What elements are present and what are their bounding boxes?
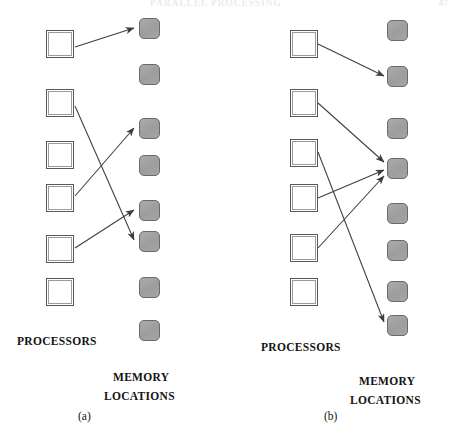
panel-b-arrow-layer bbox=[236, 0, 452, 443]
label-memory-a-line2: LOCATIONS bbox=[104, 390, 175, 402]
figure-root: PARALLEL PROCESSING 47 bbox=[0, 0, 452, 443]
memory-box-a-6[interactable] bbox=[139, 231, 160, 252]
memory-box-a-8[interactable] bbox=[139, 320, 160, 341]
processor-box-b-5[interactable] bbox=[290, 234, 318, 262]
label-processors-a: PROCESSORS bbox=[17, 335, 97, 347]
memory-box-b-2[interactable] bbox=[387, 66, 408, 87]
memory-box-a-5[interactable] bbox=[139, 200, 160, 221]
processor-box-a-2[interactable] bbox=[46, 89, 74, 117]
label-processors-b: PROCESSORS bbox=[261, 341, 341, 353]
processor-box-b-2[interactable] bbox=[290, 89, 318, 117]
panel-a: PROCESSORS MEMORY LOCATIONS (a) bbox=[0, 0, 236, 443]
panel-b: PROCESSORS MEMORY LOCATIONS (b) bbox=[236, 0, 452, 443]
arrow-p5-m5 bbox=[75, 210, 134, 248]
memory-box-b-4[interactable] bbox=[387, 158, 408, 179]
processor-box-b-4[interactable] bbox=[290, 184, 318, 212]
panel-caption-a: (a) bbox=[78, 410, 91, 422]
memory-box-a-4[interactable] bbox=[139, 155, 160, 176]
memory-box-b-6[interactable] bbox=[387, 240, 408, 261]
processor-box-b-3[interactable] bbox=[290, 139, 318, 167]
memory-box-b-3[interactable] bbox=[387, 118, 408, 139]
processor-box-b-6[interactable] bbox=[290, 278, 318, 306]
processor-box-a-3[interactable] bbox=[46, 141, 74, 169]
memory-box-a-2[interactable] bbox=[139, 64, 160, 85]
processor-box-a-1[interactable] bbox=[46, 30, 74, 58]
arrow-p1-m1 bbox=[75, 28, 134, 47]
memory-box-a-7[interactable] bbox=[139, 277, 160, 298]
arrow-p2-m4 bbox=[318, 103, 384, 162]
memory-box-b-7[interactable] bbox=[387, 281, 408, 302]
memory-box-a-3[interactable] bbox=[139, 118, 160, 139]
processor-box-b-1[interactable] bbox=[290, 30, 318, 58]
arrow-p4-m4 bbox=[318, 170, 384, 198]
memory-box-b-1[interactable] bbox=[387, 20, 408, 41]
memory-box-b-8[interactable] bbox=[387, 315, 408, 336]
memory-box-b-5[interactable] bbox=[387, 203, 408, 224]
processor-box-a-6[interactable] bbox=[46, 278, 74, 306]
label-memory-b-line2: LOCATIONS bbox=[350, 394, 421, 406]
memory-box-a-1[interactable] bbox=[139, 18, 160, 39]
arrow-p2-m6 bbox=[75, 106, 134, 240]
label-memory-a-line1: MEMORY bbox=[113, 371, 169, 383]
label-memory-b-line1: MEMORY bbox=[359, 375, 415, 387]
arrow-p4-m3 bbox=[75, 128, 134, 196]
panel-caption-b: (b) bbox=[324, 410, 337, 422]
arrow-p1-m2 bbox=[318, 44, 384, 76]
processor-box-a-5[interactable] bbox=[46, 235, 74, 263]
processor-box-a-4[interactable] bbox=[46, 184, 74, 212]
